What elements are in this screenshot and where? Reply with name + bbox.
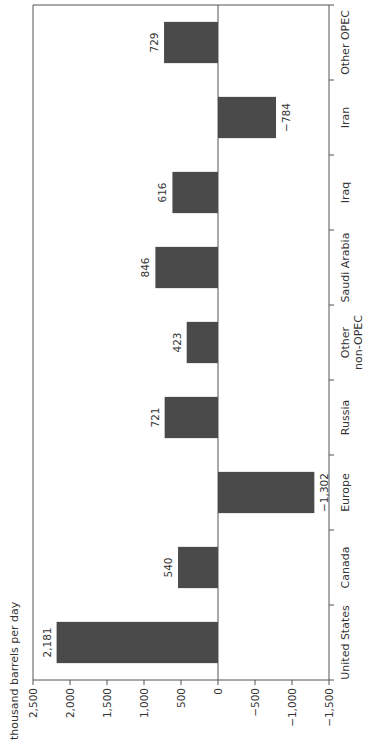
bar-saudi-arabia — [155, 247, 218, 288]
bar-europe — [218, 472, 314, 513]
y-tick-label: 500 — [175, 688, 187, 708]
value-label: 729 — [148, 32, 160, 52]
category-label: United States — [339, 605, 352, 680]
category-label: Europe — [339, 473, 352, 512]
value-label: 540 — [162, 557, 174, 577]
category-label: Canada — [339, 547, 352, 589]
bar-russia — [165, 397, 218, 438]
y-axis-label: thousand barrels per day — [8, 601, 21, 740]
bar-iraq — [172, 172, 218, 213]
value-label: 423 — [171, 332, 183, 352]
category-label: Russia — [339, 400, 352, 435]
value-label: −784 — [280, 103, 292, 132]
value-label: 616 — [156, 182, 168, 202]
bar-chart: thousand barrels per day 2,5002,0001,500… — [0, 0, 372, 744]
y-tick-label: 0 — [212, 688, 224, 695]
bar-other-opec — [164, 22, 218, 63]
y-tick-label: 2,500 — [27, 688, 39, 718]
bar-canada — [178, 547, 218, 588]
y-tick-label: −1,000 — [286, 688, 298, 727]
bar-united-states — [57, 622, 218, 663]
category-label: Other — [339, 326, 352, 358]
value-label: −1,302 — [318, 473, 330, 512]
category-label: Iran — [339, 107, 352, 129]
bar-other-non-opec — [187, 322, 218, 363]
y-tick-label: 1,000 — [138, 688, 150, 718]
value-label: 846 — [139, 257, 151, 277]
rotated-chart: thousand barrels per day 2,5002,0001,500… — [0, 0, 372, 744]
y-tick-label: −500 — [249, 688, 261, 717]
plot-area: 2,5002,0001,5001,0005000−500−1,000−1,500… — [27, 5, 365, 727]
category-label: Saudi Arabia — [339, 233, 352, 303]
category-label: non-OPEC — [352, 315, 365, 370]
y-tick-label: 2,000 — [64, 688, 76, 718]
y-tick-label: −1,500 — [323, 688, 335, 727]
value-label: 721 — [149, 407, 161, 427]
value-label: 2,181 — [41, 627, 53, 657]
y-tick-label: 1,500 — [101, 688, 113, 718]
category-label: Other OPEC — [339, 10, 352, 75]
category-label: Iraq — [339, 182, 352, 204]
bar-iran — [218, 97, 276, 138]
